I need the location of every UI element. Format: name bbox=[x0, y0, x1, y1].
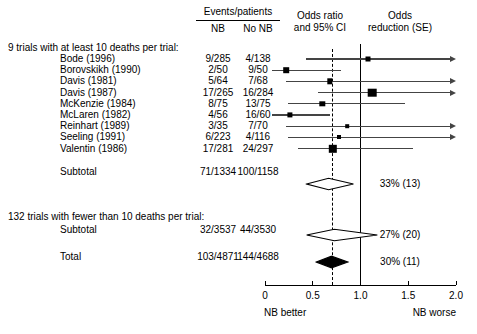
study-no-nb: 16/60 bbox=[245, 109, 270, 120]
ci-line bbox=[298, 148, 413, 149]
study-nb: 17/281 bbox=[203, 143, 234, 154]
header-odds-ratio-ci: and 95% CI bbox=[294, 22, 346, 33]
study-marker bbox=[287, 112, 292, 117]
study-nb: 8/75 bbox=[208, 98, 227, 109]
study-label: McLaren (1982) bbox=[60, 109, 131, 120]
subtotal-reduction-large: 33% (13) bbox=[380, 178, 421, 189]
study-marker bbox=[320, 101, 325, 106]
total-label: Total bbox=[60, 251, 81, 262]
total-no-nb: 144/4688 bbox=[237, 251, 279, 262]
study-label: Seeling (1991) bbox=[60, 131, 125, 142]
study-no-nb: 4/138 bbox=[245, 53, 270, 64]
ci-line bbox=[306, 58, 450, 59]
axis-right-label: NB worse bbox=[413, 307, 456, 318]
header-odds-reduction-se: reduction (SE) bbox=[368, 22, 432, 33]
header-odds-ratio: Odds ratio bbox=[297, 10, 343, 21]
study-nb: 9/285 bbox=[205, 53, 230, 64]
study-label: Davis (1987) bbox=[60, 87, 117, 98]
x-axis-tick-label: 1.0 bbox=[354, 290, 368, 301]
study-marker bbox=[368, 88, 377, 97]
study-nb: 3/35 bbox=[208, 120, 227, 131]
study-no-nb: 16/284 bbox=[243, 87, 274, 98]
x-axis-tick bbox=[456, 281, 457, 285]
x-axis-tick-label: 0.5 bbox=[306, 290, 320, 301]
x-axis-tick-label: 0 bbox=[262, 290, 268, 301]
study-no-nb: 7/68 bbox=[248, 75, 267, 86]
ci-line bbox=[272, 114, 330, 115]
study-nb: 4/56 bbox=[208, 109, 227, 120]
study-no-nb: 24/297 bbox=[243, 143, 274, 154]
ci-arrow-right bbox=[450, 90, 456, 96]
x-axis-tick-label: 1.5 bbox=[401, 290, 415, 301]
ci-line bbox=[286, 81, 450, 82]
study-nb: 6/223 bbox=[205, 131, 230, 142]
ci-arrow-right bbox=[450, 56, 456, 62]
header-col-nb: NB bbox=[211, 23, 225, 34]
ci-arrow-right bbox=[450, 134, 456, 140]
header-col-no-nb: No NB bbox=[243, 23, 272, 34]
subtotal-nb-large: 71/1334 bbox=[200, 166, 236, 177]
subtotal-label-small: Subtotal bbox=[60, 224, 97, 235]
x-axis-tick bbox=[360, 281, 361, 285]
study-nb: 17/265 bbox=[203, 87, 234, 98]
subtotal-label-large: Subtotal bbox=[60, 166, 97, 177]
study-label: Davis (1981) bbox=[60, 75, 117, 86]
group-title-0: 9 trials with at least 10 deaths per tri… bbox=[8, 42, 179, 53]
pooled-line bbox=[332, 49, 333, 285]
study-marker bbox=[337, 135, 341, 139]
subtotal-diamond-large bbox=[306, 177, 355, 191]
subtotal-diamond-small bbox=[306, 228, 379, 242]
header-events-patients: Events/patients bbox=[204, 6, 272, 17]
x-axis-tick bbox=[265, 281, 266, 285]
x-axis bbox=[265, 285, 456, 286]
subtotal-no-nb-small: 44/3530 bbox=[240, 224, 276, 235]
x-axis-tick bbox=[408, 281, 409, 285]
study-marker bbox=[329, 144, 337, 152]
total-nb: 103/4871 bbox=[197, 251, 239, 262]
group-title-1: 132 trials with fewer than 10 deaths per… bbox=[8, 211, 204, 222]
study-label: Borovskikh (1990) bbox=[60, 64, 141, 75]
header-odds-reduction: Odds bbox=[388, 10, 412, 21]
study-label: McKenzie (1984) bbox=[60, 98, 136, 109]
study-no-nb: 13/75 bbox=[245, 98, 270, 109]
ci-arrow-right bbox=[450, 78, 456, 84]
study-no-nb: 4/116 bbox=[246, 131, 270, 142]
total-diamond bbox=[316, 255, 350, 269]
study-marker bbox=[345, 124, 349, 128]
study-marker bbox=[366, 57, 371, 62]
total-reduction: 30% (11) bbox=[380, 256, 420, 267]
study-label: Bode (1996) bbox=[60, 53, 115, 64]
study-no-nb: 7/70 bbox=[248, 120, 267, 131]
ci-line bbox=[288, 103, 405, 104]
ci-arrow-right bbox=[450, 123, 456, 129]
study-nb: 2/50 bbox=[208, 64, 227, 75]
study-label: Reinhart (1989) bbox=[60, 120, 129, 131]
subtotal-no-nb-large: 100/1158 bbox=[238, 166, 279, 177]
study-marker bbox=[283, 67, 289, 73]
subtotal-nb-small: 32/3537 bbox=[200, 224, 236, 235]
subtotal-reduction-small: 27% (20) bbox=[380, 229, 421, 240]
ci-line bbox=[288, 137, 450, 138]
header-rule bbox=[196, 20, 280, 21]
x-axis-tick-label: 2.0 bbox=[449, 290, 463, 301]
axis-left-label: NB better bbox=[264, 307, 306, 318]
study-label: Valentin (1986) bbox=[60, 143, 127, 154]
ci-line bbox=[286, 126, 450, 127]
study-nb: 5/64 bbox=[208, 75, 227, 86]
study-no-nb: 9/50 bbox=[248, 64, 267, 75]
ci-line bbox=[272, 70, 342, 71]
study-marker bbox=[327, 79, 332, 84]
ci-line bbox=[318, 92, 450, 93]
forest-plot: Events/patientsNBNo NBOdds ratioand 95% … bbox=[0, 0, 477, 334]
x-axis-tick bbox=[312, 281, 313, 285]
